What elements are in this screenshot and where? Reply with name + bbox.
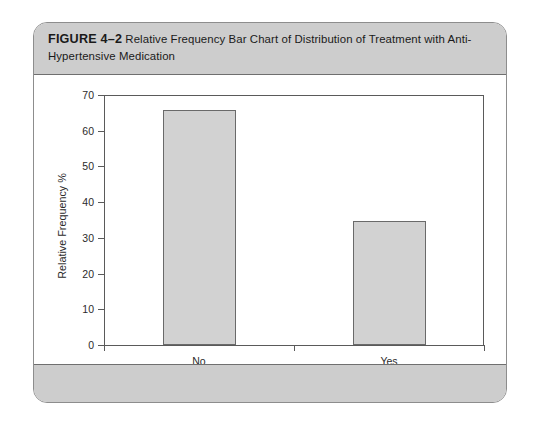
chart-plot-area: 010203040506070 NoYes Relative Frequency… (34, 75, 506, 364)
y-tick-label: 10 (82, 303, 94, 315)
bars-layer (104, 95, 484, 345)
y-tick-label: 50 (82, 160, 94, 172)
y-tick-label: 20 (82, 268, 94, 280)
y-tick-label: 40 (82, 196, 94, 208)
x-tick (294, 345, 295, 351)
figure-card: FIGURE 4–2 Relative Frequency Bar Chart … (33, 22, 507, 403)
y-axis-title: Relative Frequency % (56, 136, 68, 316)
bar-no (163, 110, 236, 345)
figure-number: FIGURE 4–2 (48, 32, 122, 46)
figure-title: FIGURE 4–2 Relative Frequency Bar Chart … (48, 31, 492, 64)
y-tick-label: 30 (82, 232, 94, 244)
figure-header-band: FIGURE 4–2 Relative Frequency Bar Chart … (34, 23, 506, 75)
bar-chart: 010203040506070 NoYes Relative Frequency… (34, 75, 507, 366)
y-tick-label: 0 (88, 339, 94, 351)
figure-footer-band (34, 364, 506, 402)
y-tick-label: 60 (82, 125, 94, 137)
y-tick-label: 70 (82, 89, 94, 101)
x-tick (104, 345, 105, 351)
bar-yes (353, 221, 426, 345)
x-tick (484, 345, 485, 351)
